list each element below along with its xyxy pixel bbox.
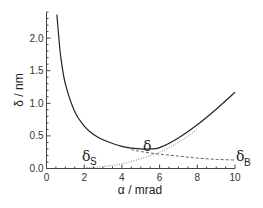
series-delta-solid [57, 15, 235, 150]
annotation-delta-b-subscript: B [244, 157, 251, 168]
x-axis-label: α / mrad [118, 183, 162, 197]
y-ticks [47, 12, 51, 169]
annotation-delta: δ [143, 138, 151, 154]
y-tick-label: 0.5 [30, 130, 44, 141]
chart: 0.00.51.01.52.0 0246810 α / mrad δ / nm … [0, 0, 263, 208]
x-tick-label: 0 [44, 172, 50, 183]
y-tick-label: 0.0 [30, 163, 44, 174]
x-tick-labels: 0246810 [44, 172, 241, 183]
y-tick-label: 2.0 [30, 33, 44, 44]
axes [47, 12, 236, 169]
x-tick-label: 10 [229, 172, 241, 183]
y-tick-label: 1.5 [30, 65, 44, 76]
x-tick-label: 2 [81, 172, 87, 183]
x-tick-label: 4 [119, 172, 125, 183]
y-tick-labels: 0.00.51.01.52.0 [30, 33, 44, 174]
x-tick-label: 6 [157, 172, 163, 183]
x-tick-label: 8 [195, 172, 201, 183]
y-axis-label: δ / nm [12, 73, 26, 106]
x-ticks [47, 165, 236, 169]
y-tick-label: 1.0 [30, 98, 44, 109]
annotation-delta-s-subscript: S [90, 156, 97, 167]
